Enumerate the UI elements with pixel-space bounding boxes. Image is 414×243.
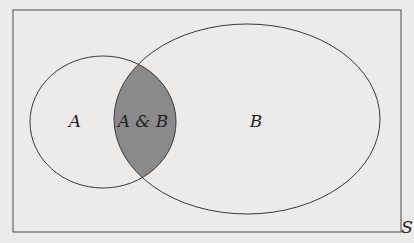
venn-diagram: A A & B B S [0, 0, 414, 243]
set-b-label: B [249, 111, 263, 131]
intersection-label: A & B [116, 111, 169, 131]
universe-label: S [401, 217, 413, 237]
set-a-label: A [67, 111, 81, 131]
